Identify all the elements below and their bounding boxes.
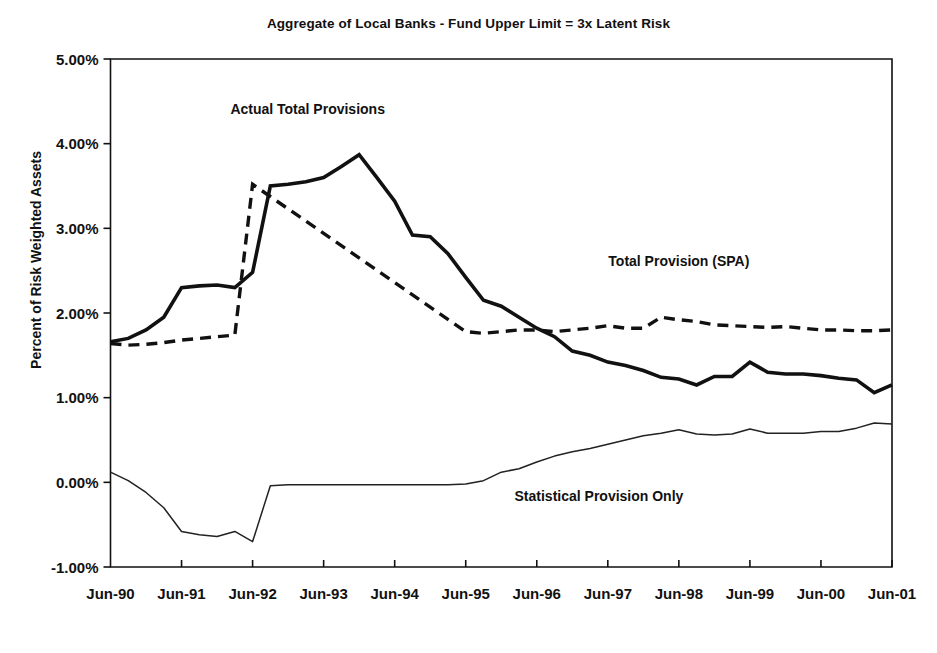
series-line-total-provision-spa [111, 184, 893, 345]
y-tick-label: 3.00% [56, 220, 99, 237]
y-tick-label: 4.00% [56, 135, 99, 152]
plot-area: 5.00%4.00%3.00%2.00%1.00%0.00%-1.00% Jun… [0, 0, 937, 653]
x-tick-label: Jun-93 [299, 585, 347, 602]
chart-figure: Aggregate of Local Banks - Fund Upper Li… [0, 0, 937, 653]
x-tick-label: Jun-94 [371, 585, 420, 602]
data-series-group [111, 155, 893, 542]
x-tick-label: Jun-96 [513, 585, 561, 602]
x-tick-label: Jun-91 [157, 585, 205, 602]
series-line-statistical-provision-only [111, 423, 893, 542]
y-axis-ticks: 5.00%4.00%3.00%2.00%1.00%0.00%-1.00% [51, 51, 111, 576]
y-tick-label: 5.00% [56, 51, 99, 68]
series-annotation-actual-total-provisions: Actual Total Provisions [230, 101, 385, 117]
series-line-actual-total-provisions [111, 155, 893, 393]
y-tick-label: 2.00% [56, 305, 99, 322]
series-annotation-total-provision-spa: Total Provision (SPA) [608, 253, 749, 269]
y-tick-label: -1.00% [51, 559, 99, 576]
x-tick-label: Jun-98 [655, 585, 703, 602]
x-tick-label: Jun-90 [86, 585, 134, 602]
x-tick-label: Jun-99 [726, 585, 774, 602]
axis-frame-path [111, 59, 893, 567]
y-tick-label: 0.00% [56, 474, 99, 491]
x-tick-label: Jun-92 [228, 585, 276, 602]
x-tick-label: Jun-97 [584, 585, 632, 602]
x-tick-label: Jun-01 [868, 585, 916, 602]
y-tick-label: 1.00% [56, 389, 99, 406]
x-tick-label: Jun-00 [797, 585, 845, 602]
series-annotation-statistical-provision-only: Statistical Provision Only [515, 488, 684, 504]
x-tick-label: Jun-95 [442, 585, 490, 602]
axis-frame [111, 59, 893, 567]
